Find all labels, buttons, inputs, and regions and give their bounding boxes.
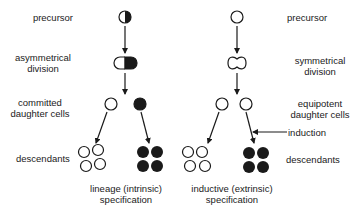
- label-asymmetrical-division: asymmetrical division: [6, 52, 80, 74]
- caption-lineage: lineage (intrinsic) specification: [75, 183, 177, 205]
- label-daughter-cells: daughter cells: [3, 108, 77, 119]
- label-symmetrical-division: symmetrical division: [283, 55, 357, 77]
- label-daughter-cells: daughter cells: [283, 109, 357, 120]
- right-daughter-1: [216, 98, 228, 110]
- right-arrow-3: [208, 112, 219, 143]
- label-right-descendants: descendants: [286, 154, 340, 165]
- right-daughter-2: [240, 98, 252, 110]
- label-induction: induction: [288, 127, 326, 138]
- left-daughter-black: [134, 98, 146, 110]
- left-precursor-cell: [119, 11, 131, 23]
- label-asymmetrical: asymmetrical: [6, 52, 80, 63]
- right-precursor-cell: [231, 11, 243, 23]
- label-equipotent-daughters: equipotent daughter cells: [283, 98, 357, 120]
- right-arrow-4: [246, 112, 254, 143]
- label-committed-daughters: committed daughter cells: [3, 97, 77, 119]
- caption-inductive: inductive (extrinsic) specification: [177, 183, 287, 205]
- caption-lineage-line2: specification: [75, 194, 177, 205]
- caption-inductive-line1: inductive (extrinsic): [177, 183, 287, 194]
- left-descendants-white: [79, 145, 106, 172]
- label-right-precursor: precursor: [287, 12, 327, 23]
- right-symmetric-division-cell: [228, 57, 246, 69]
- label-left-descendants: descendants: [16, 153, 70, 164]
- caption-inductive-line2: specification: [177, 194, 287, 205]
- label-division: division: [283, 66, 357, 77]
- label-equipotent: equipotent: [283, 98, 357, 109]
- left-arrow-3: [96, 112, 107, 143]
- label-left-precursor: precursor: [0, 12, 73, 23]
- left-asymmetric-division-cell: [114, 57, 137, 69]
- right-descendants-black: [243, 147, 269, 173]
- caption-lineage-line1: lineage (intrinsic): [75, 183, 177, 194]
- left-daughter-white: [105, 98, 117, 110]
- label-division: division: [6, 63, 80, 74]
- label-symmetrical: symmetrical: [283, 55, 357, 66]
- label-committed: committed: [3, 97, 77, 108]
- left-descendants-black: [137, 146, 163, 172]
- left-arrow-4: [141, 112, 149, 143]
- right-descendants-white: [183, 147, 211, 172]
